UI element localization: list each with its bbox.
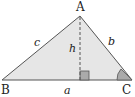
- vertex-label-c: C: [122, 83, 131, 97]
- triangle-diagram: A B C c b h a: [0, 0, 135, 97]
- side-label-c: c: [34, 36, 40, 49]
- vertex-label-a: A: [75, 0, 85, 14]
- side-label-a: a: [64, 84, 71, 97]
- vertex-label-b: B: [1, 83, 10, 97]
- side-label-b: b: [108, 35, 115, 48]
- right-angle-marker: [80, 71, 89, 80]
- triangle-abc: [2, 16, 132, 80]
- altitude-label-h: h: [69, 42, 76, 55]
